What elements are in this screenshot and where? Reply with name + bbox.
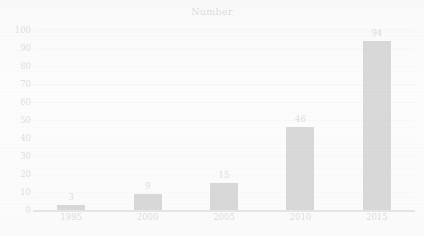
y-axis-tick-label: 0 [3, 206, 31, 215]
bar[interactable] [286, 127, 314, 210]
x-axis-tick-label: 1995 [46, 213, 96, 222]
bars-layer: 39154694 [33, 30, 415, 210]
x-axis-tick-label: 2010 [275, 213, 325, 222]
y-axis-tick-label: 50 [3, 116, 31, 125]
chart-title: Number [0, 6, 424, 17]
y-axis-labels: 1009080706050403020100 [0, 0, 31, 236]
bar[interactable] [210, 183, 238, 210]
y-axis-tick-label: 60 [3, 98, 31, 107]
y-axis-tick-label: 90 [3, 44, 31, 53]
bar-value-label: 9 [128, 182, 168, 191]
x-axis-tick-label: 2005 [199, 213, 249, 222]
y-axis-tick-label: 100 [3, 26, 31, 35]
bar[interactable] [134, 194, 162, 210]
y-axis-tick-label: 10 [3, 188, 31, 197]
bar-value-label: 94 [357, 29, 397, 38]
bar-value-label: 46 [280, 115, 320, 124]
y-axis-tick-label: 20 [3, 170, 31, 179]
y-axis-tick-label: 70 [3, 80, 31, 89]
y-axis-tick-label: 30 [3, 152, 31, 161]
bar[interactable] [57, 205, 85, 210]
y-axis-tick-label: 80 [3, 62, 31, 71]
y-axis-tick-label: 40 [3, 134, 31, 143]
bar-value-label: 15 [204, 171, 244, 180]
bar-chart: Number 1009080706050403020100 39154694 1… [0, 0, 424, 236]
x-axis-tick-label: 2015 [352, 213, 402, 222]
bar[interactable] [363, 41, 391, 210]
bar-value-label: 3 [51, 193, 91, 202]
x-axis-tick-label: 2000 [123, 213, 173, 222]
